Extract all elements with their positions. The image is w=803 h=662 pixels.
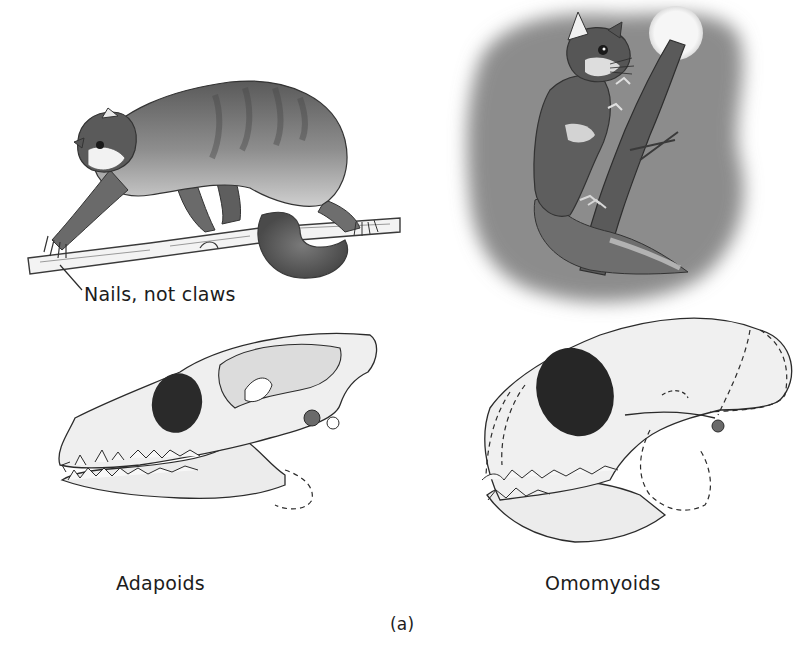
adapoid-animal-drawing <box>0 0 400 300</box>
panel-label: (a) <box>390 614 414 634</box>
adapoid-illustration: Nails, not claws <box>0 0 400 300</box>
adapoid-skull-drawing <box>0 300 400 540</box>
adapoid-skull-panel: Adapoids <box>0 300 400 600</box>
omomyoid-skull-panel: Omomyoids <box>400 300 803 600</box>
omomyoid-animal-drawing <box>440 0 803 310</box>
omomyoid-skull-drawing <box>400 300 803 560</box>
omomyoid-illustration <box>440 0 803 310</box>
omomyoids-label: Omomyoids <box>545 572 661 594</box>
adapoids-label: Adapoids <box>116 572 205 594</box>
